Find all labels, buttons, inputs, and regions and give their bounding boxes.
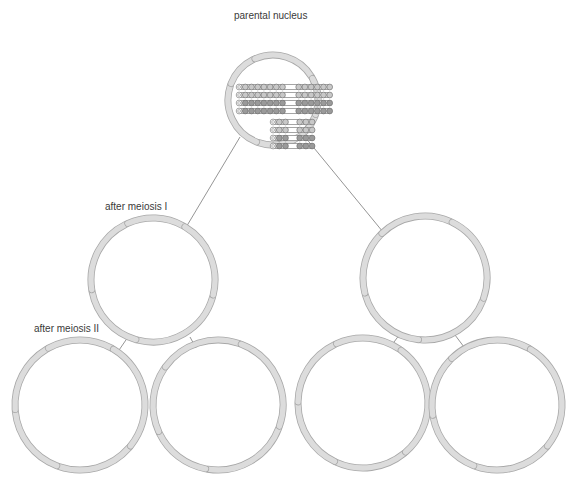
gene-bead [261, 84, 267, 90]
gene-bead [249, 84, 255, 90]
envelope-segment-outline [160, 433, 206, 468]
envelope-segment [452, 340, 529, 358]
gene-bead [236, 84, 242, 90]
gene-bead [314, 92, 320, 98]
nucleus-m2-d [432, 340, 562, 470]
envelope-segment [59, 448, 129, 470]
gene-bead [267, 92, 273, 98]
gene-bead [309, 135, 315, 141]
gene-bead [242, 92, 248, 98]
nucleus-m1-right [363, 216, 487, 340]
gene-bead [297, 119, 303, 125]
envelope-segment [337, 453, 404, 468]
gene-bead [280, 84, 286, 90]
envelope-segment [382, 216, 450, 233]
nucleus-m2-b [153, 340, 283, 470]
envelope-segment [138, 297, 213, 342]
gene-bead [276, 119, 282, 125]
gene-bead [242, 84, 248, 90]
gene-bead [255, 92, 261, 98]
gene-bead [249, 108, 255, 114]
gene-bead [255, 100, 261, 106]
gene-bead [276, 143, 282, 149]
gene-bead [242, 100, 248, 106]
gene-bead [255, 108, 261, 114]
label-parental-nucleus: parental nucleus [234, 10, 307, 21]
gene-bead [303, 119, 309, 125]
nucleus-m2-c [298, 338, 428, 468]
connector-lines [117, 137, 464, 353]
gene-bead [308, 108, 314, 114]
gene-bead [297, 143, 303, 149]
envelope-segment [185, 227, 215, 295]
connector-line [455, 335, 464, 347]
gene-bead [236, 100, 242, 106]
chromosome-row [270, 135, 315, 141]
nucleus-m2-a [15, 340, 145, 470]
envelope-segment [363, 235, 380, 293]
chromosome-row [236, 84, 332, 90]
gene-bead [242, 108, 248, 114]
gene-bead [297, 135, 303, 141]
envelope-segment [91, 224, 126, 289]
envelope-segment [128, 218, 183, 226]
connector-line [185, 137, 240, 229]
gene-bead [276, 135, 282, 141]
gene-bead [255, 84, 261, 90]
envelope-segment [15, 412, 56, 466]
gene-bead [249, 92, 255, 98]
gene-bead [296, 84, 302, 90]
gene-bead [280, 108, 286, 114]
envelope-segment [113, 349, 145, 446]
gene-bead [302, 84, 308, 90]
gene-bead [314, 100, 320, 106]
gene-bead [303, 127, 309, 133]
gene-bead [321, 84, 327, 90]
gene-bead [249, 100, 255, 106]
gene-bead [296, 108, 302, 114]
envelope-segment [530, 349, 562, 446]
chromosome-row [270, 143, 315, 149]
connector-line [305, 137, 383, 232]
gene-bead [302, 108, 308, 114]
chromosome-row [236, 108, 332, 114]
label-after-meiosis-2: after meiosis II [34, 323, 99, 334]
gene-bead [270, 135, 276, 141]
gene-bead [261, 100, 267, 106]
gene-bead [296, 100, 302, 106]
gene-bead [270, 119, 276, 125]
gene-bead [303, 135, 309, 141]
gene-bead [296, 92, 302, 98]
gene-bead [309, 127, 315, 133]
gene-bead [236, 108, 242, 114]
gene-bead [309, 119, 315, 125]
gene-bead [267, 100, 273, 106]
nuclei-group [15, 55, 562, 470]
gene-bead [270, 127, 276, 133]
gene-bead [283, 135, 289, 141]
chromosome-row [236, 100, 332, 106]
gene-bead [280, 92, 286, 98]
gene-bead [309, 143, 315, 149]
meiosis-diagram [0, 0, 574, 483]
gene-bead [236, 92, 242, 98]
gene-bead [321, 100, 327, 106]
gene-bead [302, 92, 308, 98]
nucleus-m1-left [91, 218, 215, 342]
gene-bead [327, 108, 333, 114]
gene-bead [327, 84, 333, 90]
envelope-segment [255, 55, 311, 77]
gene-bead [321, 92, 327, 98]
envelope-segment [208, 428, 279, 470]
gene-bead [327, 92, 333, 98]
gene-bead [270, 143, 276, 149]
gene-bead [280, 100, 286, 106]
chromosome-row [236, 92, 332, 98]
gene-bead [327, 100, 333, 106]
envelope-segment [476, 448, 546, 470]
gene-bead [283, 127, 289, 133]
gene-bead [283, 143, 289, 149]
gene-bead [302, 100, 308, 106]
gene-bead [273, 84, 279, 90]
gene-bead [273, 108, 279, 114]
